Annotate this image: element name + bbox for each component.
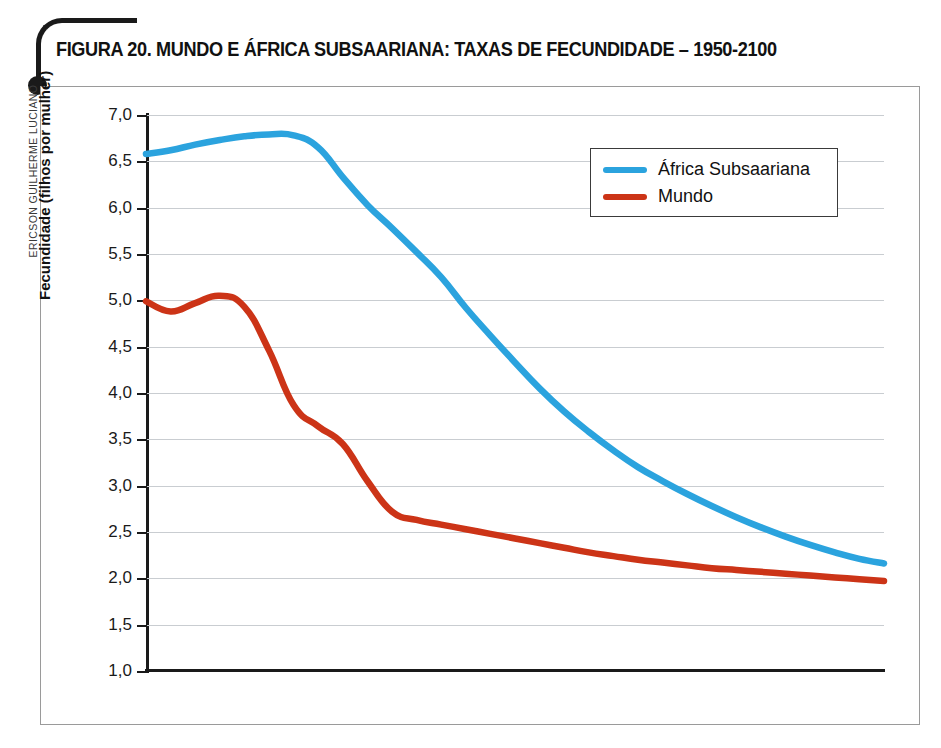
figure-root: ERICSON GUILHERME LUCIANO FIGURA 20. MUN… (0, 0, 941, 748)
y-tick-label: 3,5 (108, 429, 132, 449)
series-line-mundo (146, 296, 884, 582)
y-tick-label: 1,0 (108, 661, 132, 681)
legend-item-mundo: Mundo (603, 183, 825, 210)
figure-title: FIGURA 20. MUNDO E ÁFRICA SUBSAARIANA: T… (56, 38, 856, 61)
legend-swatch-mundo (603, 194, 647, 200)
y-tick-mark (137, 671, 147, 673)
legend-label-africa: África Subsaariana (658, 159, 810, 180)
y-tick-label: 3,0 (108, 476, 132, 496)
y-tick-label: 4,0 (108, 383, 132, 403)
y-tick-label: 1,5 (108, 615, 132, 635)
legend-swatch-africa (603, 167, 647, 173)
y-tick-label: 4,5 (108, 337, 132, 357)
y-tick-label: 5,0 (108, 290, 132, 310)
y-tick-label: 6,0 (108, 198, 132, 218)
y-tick-label: 5,5 (108, 244, 132, 264)
y-axis-title: Fecundidade (filhos por mulher) (36, 71, 53, 300)
y-tick-label: 7,0 (108, 105, 132, 125)
y-tick-label: 2,0 (108, 568, 132, 588)
y-tick-label: 6,5 (108, 151, 132, 171)
legend-label-mundo: Mundo (658, 186, 713, 207)
legend-item-africa-subsaariana: África Subsaariana (603, 156, 825, 183)
chart-legend: África Subsaariana Mundo (590, 148, 838, 217)
y-tick-label: 2,5 (108, 522, 132, 542)
